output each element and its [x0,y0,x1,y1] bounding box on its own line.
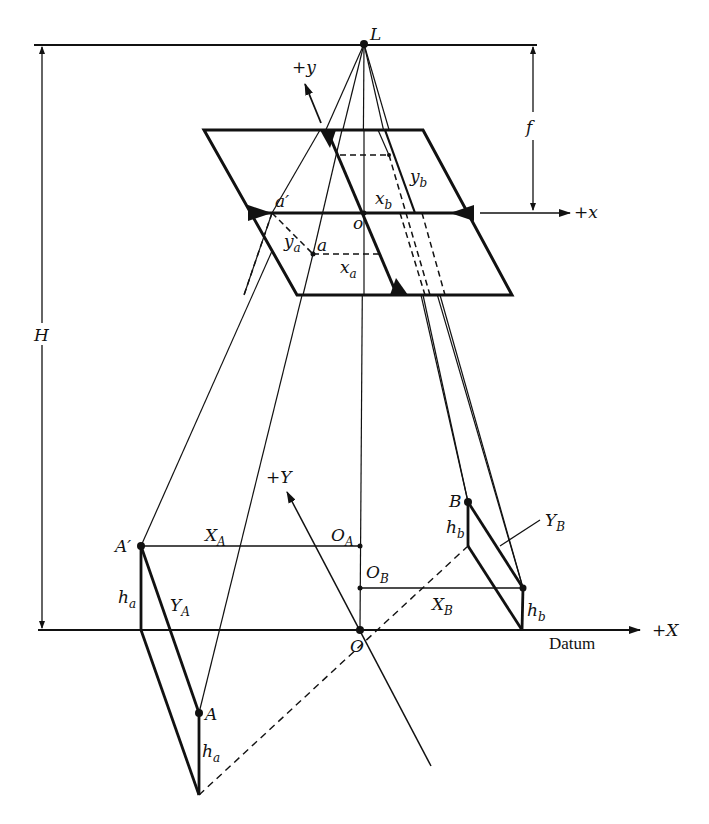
point-a [311,252,316,257]
point-b [387,153,391,157]
label-A: A [203,704,217,724]
point-A-prime [137,542,145,550]
point-B-prime [520,585,527,592]
label-O: O [350,636,364,656]
Y-B-leader [500,520,540,546]
point-B-parallelogram [468,502,523,630]
label-Y-B: YB [545,510,565,534]
rays-below-photo [423,295,523,588]
label-plus-x: +x [574,202,598,222]
label-plus-Y: +Y [266,467,293,487]
label-H: H [33,325,50,345]
label-a-prime: a′ [275,191,289,211]
plus-y-axis-arrow [305,84,321,123]
point-L [360,40,368,48]
label-plus-y: +y [292,57,316,77]
label-plus-X: +X [652,620,679,640]
point-O [356,626,364,634]
label-a: a [317,235,327,255]
label-A-prime: A′ [113,536,131,556]
ground-diagonal-dashed [199,546,468,795]
label-f: f [524,117,535,137]
label-datum: Datum [549,634,595,653]
label-Y-A: YA [170,595,190,619]
label-h-b-lower: hb [527,600,546,624]
label-X-B: XB [430,594,453,618]
label-B: B [448,491,462,511]
point-A-parallelogram [141,546,199,795]
label-o: o [353,213,363,233]
point-O-B [358,586,363,591]
label-h-b-upper: hb [446,517,465,541]
label-L: L [369,24,381,44]
point-O-A [358,544,363,549]
label-h-a-left: ha [118,587,136,611]
point-A [195,709,203,717]
label-O-B: OB [366,562,389,586]
label-h-a-lower: ha [202,741,220,765]
point-B [464,498,472,506]
photogrammetry-diagram: L f H +y +x o a′ a ya xa xb yb +Y A′ XA … [0,0,709,824]
